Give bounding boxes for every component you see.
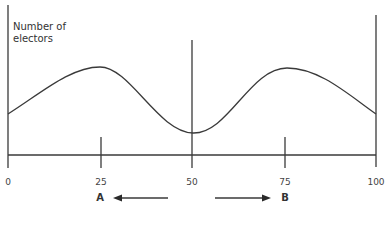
y-axis-label-line1: Number of (13, 21, 83, 33)
y-axis-label-line2: electors (13, 33, 83, 45)
arrow-left-icon (113, 195, 122, 202)
y-axis-label: Number of electors (13, 21, 83, 45)
x-tick-label-50: 50 (186, 177, 197, 188)
x-tick-label-25: 25 (95, 177, 106, 188)
position-label-b: B (281, 192, 289, 203)
x-tick-label-75: 75 (279, 177, 290, 188)
x-tick-label-100: 100 (367, 177, 384, 188)
arrow-right-icon (262, 195, 271, 202)
x-tick-label-0: 0 (5, 177, 11, 188)
position-label-a: A (96, 192, 104, 203)
